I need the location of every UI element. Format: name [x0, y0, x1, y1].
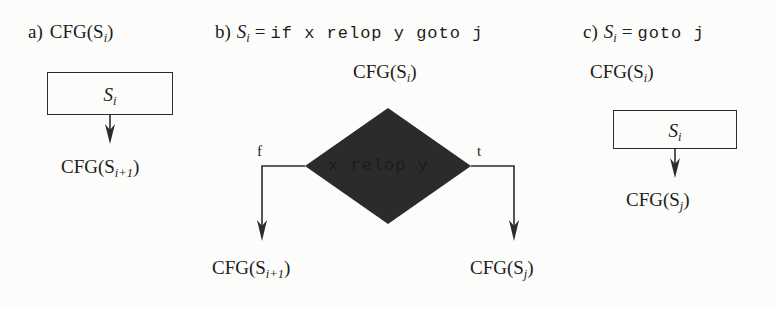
panel-a-successor-suffix: )	[133, 156, 139, 177]
panel-a-successor-label: CFG(Si+1)	[61, 157, 139, 179]
panel-b-true-target-prefix: CFG(S	[470, 257, 524, 278]
panel-b-diamond-condition-text: x relop y	[328, 157, 429, 174]
panel-c-successor-prefix: CFG(S	[626, 189, 680, 210]
panel-a-simple-statement: a)CFG(Si) Si CFG(Si+1)	[0, 0, 200, 309]
panel-b-false-target-label: CFG(Si+1)	[212, 258, 290, 280]
panel-b-false-target-prefix: CFG(S	[212, 257, 266, 278]
panel-b-conditional-statement: b)Si=if x relop y goto j CFG(Si) x relop…	[200, 0, 540, 309]
panel-c-arrow-icon	[540, 0, 776, 309]
panel-a-successor-subscript: i+1	[115, 166, 133, 180]
panel-c-successor-suffix: )	[683, 189, 689, 210]
panel-b-false-target-suffix: )	[284, 257, 290, 278]
panel-b-false-branch-tag: f	[257, 144, 262, 159]
panel-b-true-branch-tag: t	[477, 144, 481, 159]
panel-b-false-target-subscript: i+1	[266, 267, 284, 281]
panel-b-true-target-label: CFG(Sj)	[470, 258, 534, 280]
panel-c-goto-statement: c)Si=goto j CFG(Si) Si CFG(Sj)	[540, 0, 776, 309]
panel-c-successor-label: CFG(Sj)	[626, 190, 690, 212]
panel-a-successor-prefix: CFG(S	[61, 156, 115, 177]
cfg-construction-figure: a)CFG(Si) Si CFG(Si+1) b)Si=if x relop y…	[0, 0, 776, 309]
panel-b-true-target-suffix: )	[527, 257, 533, 278]
panel-a-arrow-icon	[0, 0, 200, 309]
